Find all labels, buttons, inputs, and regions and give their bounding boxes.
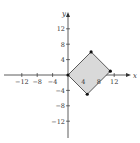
y-axis-arrow-icon <box>66 12 70 17</box>
y-tick-label: −8 <box>55 102 65 110</box>
x-axis-label: x <box>133 72 137 80</box>
y-tick-label: 4 <box>61 56 65 64</box>
vertex-point <box>66 73 69 76</box>
y-tick-label: 8 <box>61 41 65 49</box>
x-tick-label: 4 <box>81 78 85 86</box>
x-tick-label: −4 <box>48 78 58 86</box>
x-axis-arrow-icon <box>126 73 131 77</box>
shaded-rectangle <box>68 52 110 94</box>
vertex-point <box>90 50 93 53</box>
x-tick-label: −12 <box>15 78 29 86</box>
x-tick-label: −8 <box>32 78 42 86</box>
y-tick-label: 12 <box>57 25 65 33</box>
y-tick-label: −12 <box>51 118 65 126</box>
vertex-point <box>86 93 89 96</box>
y-tick-label: −4 <box>55 87 65 95</box>
coordinate-plane: −12−8−448121284−4−8−12xy <box>0 0 140 143</box>
rectangle-polygon <box>68 52 110 94</box>
x-tick-label: 8 <box>97 78 101 86</box>
x-tick-label: 12 <box>110 78 118 86</box>
vertex-point <box>109 70 112 73</box>
